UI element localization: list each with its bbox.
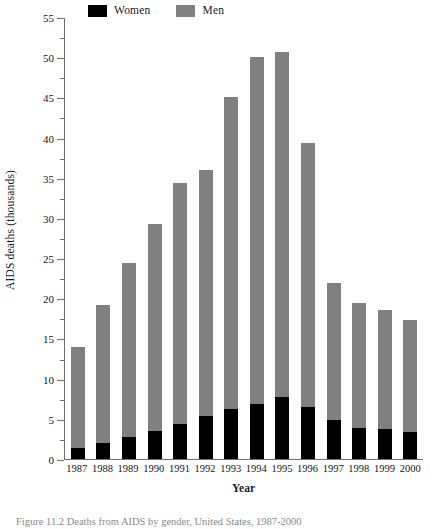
bar-stack[interactable]: [71, 347, 85, 459]
x-tick-label: 1992: [192, 463, 218, 474]
plot-area: 0510152025303540455055: [64, 18, 423, 460]
bar-stack[interactable]: [403, 320, 417, 459]
x-tick-label: 1995: [269, 463, 295, 474]
y-tick-label: 25: [43, 253, 54, 265]
figure-caption: Figure 11.2 Deaths from AIDS by gender, …: [16, 516, 428, 527]
x-tick-label: 1991: [167, 463, 193, 474]
y-tick-major: [57, 58, 64, 59]
y-tick-minor: [60, 199, 64, 200]
bar-stack[interactable]: [275, 52, 289, 459]
y-tick-label: 55: [43, 12, 54, 24]
bar-segment-men[interactable]: [199, 170, 213, 417]
bar-segment-women[interactable]: [173, 424, 187, 459]
bar-group[interactable]: [295, 18, 321, 459]
y-tick-minor: [60, 118, 64, 119]
x-tick-label: 1990: [141, 463, 167, 474]
bar-stack[interactable]: [173, 183, 187, 459]
bar-segment-men[interactable]: [224, 97, 238, 409]
bar-segment-men[interactable]: [96, 305, 110, 443]
x-tick-label: 1994: [244, 463, 270, 474]
bar-segment-women[interactable]: [378, 429, 392, 459]
bar-group[interactable]: [116, 18, 142, 459]
bar-group[interactable]: [142, 18, 168, 459]
y-tick-major: [57, 139, 64, 140]
bar-segment-women[interactable]: [96, 443, 110, 459]
x-tick-label: 1988: [90, 463, 116, 474]
bar-group[interactable]: [193, 18, 219, 459]
legend-label-men: Men: [202, 5, 224, 17]
y-tick-minor: [60, 239, 64, 240]
bar-segment-women[interactable]: [224, 409, 238, 459]
bar-segment-men[interactable]: [148, 224, 162, 431]
bar-stack[interactable]: [199, 170, 213, 459]
bar-segment-men[interactable]: [301, 143, 315, 407]
bar-stack[interactable]: [250, 57, 264, 459]
y-tick-label: 10: [43, 374, 54, 386]
bar-segment-men[interactable]: [378, 310, 392, 430]
y-tick-major: [57, 339, 64, 340]
chart-legend: Women Men: [88, 3, 224, 19]
y-tick-label: 40: [43, 133, 54, 145]
x-tick-label: 1997: [320, 463, 346, 474]
bar-group[interactable]: [372, 18, 398, 459]
bar-stack[interactable]: [352, 303, 366, 459]
y-tick-label: 45: [43, 92, 54, 104]
y-tick-minor: [60, 279, 64, 280]
bar-group[interactable]: [244, 18, 270, 459]
bar-segment-men[interactable]: [71, 347, 85, 447]
bar-segment-women[interactable]: [275, 397, 289, 459]
bar-group[interactable]: [398, 18, 424, 459]
bar-segment-women[interactable]: [199, 416, 213, 459]
y-axis-title-text: AIDS deaths (thousands): [4, 170, 16, 290]
y-tick-minor: [60, 78, 64, 79]
bar-segment-men[interactable]: [250, 57, 264, 403]
y-tick-label: 20: [43, 293, 54, 305]
bar-segment-men[interactable]: [122, 263, 136, 437]
bar-group[interactable]: [218, 18, 244, 459]
bar-segment-women[interactable]: [122, 437, 136, 459]
bar-segment-women[interactable]: [352, 428, 366, 459]
bar-group[interactable]: [321, 18, 347, 459]
bar-stack[interactable]: [148, 224, 162, 459]
x-tick-label: 2000: [397, 463, 423, 474]
x-tick-label: 1989: [115, 463, 141, 474]
x-tick-label: 1993: [218, 463, 244, 474]
bar-segment-men[interactable]: [275, 52, 289, 397]
bar-segment-men[interactable]: [403, 320, 417, 433]
bar-group[interactable]: [91, 18, 117, 459]
y-axis-title: AIDS deaths (thousands): [2, 0, 18, 460]
bar-segment-women[interactable]: [148, 431, 162, 459]
legend-entry-women: Women: [88, 5, 150, 17]
bar-segment-women[interactable]: [403, 432, 417, 459]
y-tick-label: 5: [49, 414, 55, 426]
bar-stack[interactable]: [224, 97, 238, 459]
x-tick-label: 1998: [346, 463, 372, 474]
bar-segment-women[interactable]: [71, 448, 85, 459]
x-tick-label: 1999: [372, 463, 398, 474]
bar-segment-women[interactable]: [301, 407, 315, 459]
bar-segment-men[interactable]: [327, 283, 341, 420]
y-tick-minor: [60, 319, 64, 320]
bar-stack[interactable]: [327, 283, 341, 459]
bar-segment-men[interactable]: [352, 303, 366, 428]
y-tick-major: [57, 18, 64, 19]
bar-group[interactable]: [167, 18, 193, 459]
y-tick-label: 35: [43, 173, 54, 185]
bar-stack[interactable]: [301, 143, 315, 459]
bar-segment-men[interactable]: [173, 183, 187, 425]
bar-group[interactable]: [270, 18, 296, 459]
bar-stack[interactable]: [96, 305, 110, 459]
x-tick-label: 1996: [295, 463, 321, 474]
y-tick-major: [57, 380, 64, 381]
bar-segment-women[interactable]: [327, 420, 341, 459]
y-tick-minor: [60, 440, 64, 441]
bar-group[interactable]: [65, 18, 91, 459]
y-tick-label: 30: [43, 213, 54, 225]
bar-stack[interactable]: [122, 263, 136, 459]
x-axis-line: [64, 459, 423, 460]
bar-group[interactable]: [346, 18, 372, 459]
bar-stack[interactable]: [378, 310, 392, 459]
bar-segment-women[interactable]: [250, 404, 264, 459]
x-axis-title: Year: [64, 482, 423, 494]
y-tick-minor: [60, 38, 64, 39]
